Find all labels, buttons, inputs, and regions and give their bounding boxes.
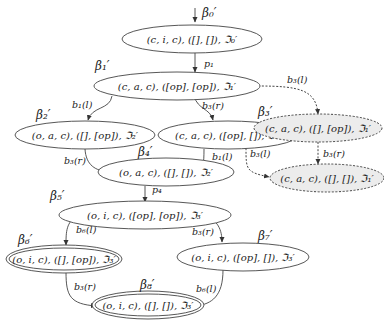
edge-label-b3l-dashed-2: b₃(l) (250, 148, 271, 159)
beta-label: β₆′ (17, 233, 33, 247)
state-transition-diagram: p₁ b₁(l) b₃(r) b₃(l) b₃(r) b₁(l) b₃(l) b… (0, 0, 384, 329)
node-label: (c, a, c), ([], [op]), ℑ₁′ (265, 123, 372, 134)
node-label: (o, i, c), ([], [op]), ℑ₃′ (12, 254, 116, 265)
beta-label: β₅′ (49, 189, 65, 203)
node-label: (o, i, c), ([op], [op]), ℑ₃′ (87, 210, 204, 221)
beta-label: β₂′ (35, 108, 51, 122)
node-dashed-b: (c, a, c), ([], []), ℑ₁′ (270, 164, 384, 192)
node-beta5: (o, i, c), ([op], [op]), ℑ₃′ β₅′ (49, 189, 231, 229)
node-label: (c, a, c), ([op], [op]), ℑ₁′ (118, 81, 237, 92)
edge-label-p1: p₁ (204, 58, 214, 69)
node-label: (c, i, c), ([], []), ℑ₀′ (147, 34, 238, 45)
beta-label: β₃′ (257, 105, 273, 119)
beta-label: β₇′ (257, 229, 273, 243)
node-label: (o, a, c), ([], [op]), ℑ₂′ (32, 130, 139, 141)
edge-label-b3r-2: b₃(r) (64, 155, 86, 166)
edge-label-b3r: b₃(r) (202, 100, 224, 111)
node-label: (c, a, c), ([], []), ℑ₁′ (280, 173, 374, 184)
edge-label-b3r-3: b₃(r) (192, 226, 214, 237)
beta-label: β₀′ (201, 6, 217, 20)
edge-label-b3l-dashed: b₃(l) (287, 74, 308, 85)
beta-label: β₈′ (139, 278, 155, 292)
edge-label-b1l: b₁(l) (72, 99, 93, 110)
edge-label-b1l-2: b₁(l) (212, 151, 233, 162)
node-beta2: (o, a, c), ([], [op]), ℑ₂′ β₂′ (15, 108, 155, 149)
node-beta8: (o, i, c), ([], []), ℑ₃′ β₈′ (92, 278, 204, 319)
node-beta1: (c, a, c), ([op], [op]), ℑ₁′ β₁′ (94, 59, 260, 100)
edge-label-b3r-4: b₃(r) (74, 281, 96, 292)
node-label: (o, a, c), ([], []), ℑ₂′ (119, 167, 214, 178)
beta-label: β₄′ (137, 145, 153, 159)
edge-label-b3r-dashed: b₃(r) (323, 148, 345, 159)
beta-label: β₁′ (94, 59, 110, 73)
node-beta6: (o, i, c), ([], [op]), ℑ₃′ β₆′ (6, 233, 122, 273)
node-label: (o, i, c), ([op], []), ℑ₃′ (191, 252, 295, 263)
edge-label-b6l-2: b₆(l) (196, 283, 217, 294)
node-dashed-a: (c, a, c), ([], [op]), ℑ₁′ (254, 114, 382, 142)
node-beta0: (c, i, c), ([], []), ℑ₀′ β₀′ (122, 6, 262, 53)
node-label: (o, i, c), ([], []), ℑ₃′ (102, 300, 194, 311)
